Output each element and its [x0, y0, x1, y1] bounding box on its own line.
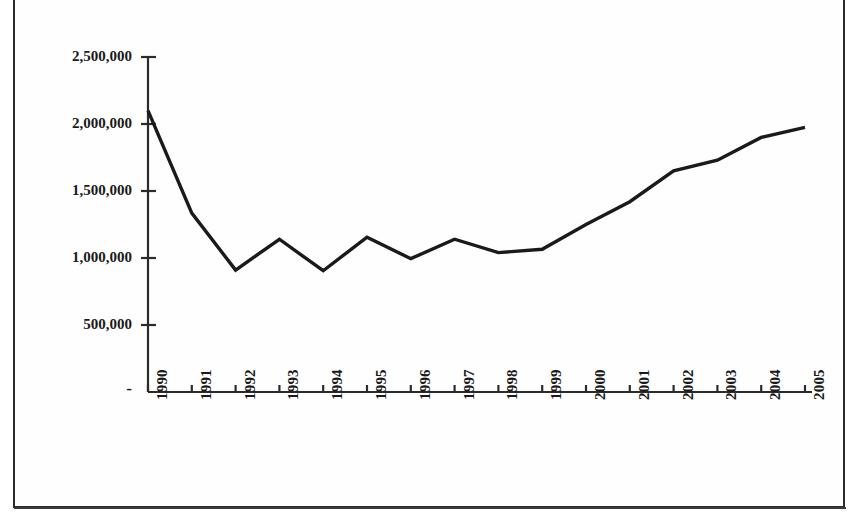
- data-series-line: [148, 111, 805, 271]
- line-chart: -500,0001,000,0001,500,0002,000,0002,500…: [0, 0, 858, 524]
- y-tick-label-text: 500,000: [83, 316, 132, 333]
- x-tick-label-text: 2000: [592, 369, 609, 400]
- x-tick-label-text: 1996: [417, 369, 434, 400]
- x-tick-label-text: 2002: [680, 369, 697, 400]
- y-tick-label-text: 1,500,000: [72, 182, 132, 199]
- x-tick-label-text: 1992: [242, 369, 259, 400]
- x-tick-label-text: 1995: [373, 369, 390, 400]
- x-tick-label-text: 1997: [461, 369, 478, 400]
- x-tick-label-text: 1993: [285, 369, 302, 400]
- x-tick-label-text: 1990: [154, 369, 171, 400]
- x-tick-label-text: 2003: [723, 369, 740, 400]
- y-tick-label-text: 2,500,000: [72, 48, 132, 65]
- x-tick-label-text: 1991: [198, 369, 215, 400]
- y-tick-label-text: 1,000,000: [72, 249, 132, 266]
- x-tick-label-text: 1994: [329, 369, 346, 400]
- y-tick-label-text: -: [126, 379, 132, 399]
- x-tick-label-text: 2001: [636, 369, 653, 400]
- x-tick-label-text: 2004: [767, 369, 784, 400]
- y-tick-label-text: 2,000,000: [72, 115, 132, 132]
- x-tick-label-text: 1998: [504, 369, 521, 400]
- x-tick-label-text: 1999: [548, 369, 565, 400]
- x-tick-label-text: 2005: [811, 369, 828, 400]
